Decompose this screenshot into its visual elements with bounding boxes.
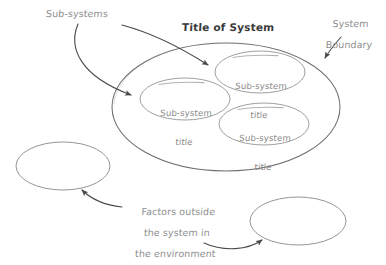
external-ellipse-right <box>250 197 346 245</box>
subsystem-bottom-label-line2: title <box>218 163 309 173</box>
boundary-label-line1: System <box>332 18 369 29</box>
factors-label-line1: Factors outside <box>141 206 215 217</box>
subsystem-left-label-line2: title <box>139 138 230 148</box>
subsystem-bottom-label: Sub-system title <box>216 114 312 193</box>
annotation-system-boundary: System Boundary <box>312 8 375 61</box>
annotation-subsystems: Sub-systems <box>46 9 109 20</box>
subsystem-left-label-line1: Sub-system <box>141 109 232 119</box>
arrow-subsystems-to-left <box>75 24 131 95</box>
arrow-factors-to-left-ellipse <box>82 190 122 207</box>
annotation-external-factors: Factors outside the system in the enviro… <box>121 196 219 265</box>
diagram-canvas: Sub-systems Title of System System Bound… <box>0 0 386 265</box>
factors-label-line3: the environment <box>135 248 216 259</box>
boundary-label-line2: Boundary <box>325 39 372 50</box>
subsystem-bottom-label-line1: Sub-system <box>220 134 311 144</box>
external-ellipse-left <box>16 142 110 190</box>
factors-label-line2: the system in <box>144 227 211 238</box>
page-title: Title of System <box>182 22 275 34</box>
